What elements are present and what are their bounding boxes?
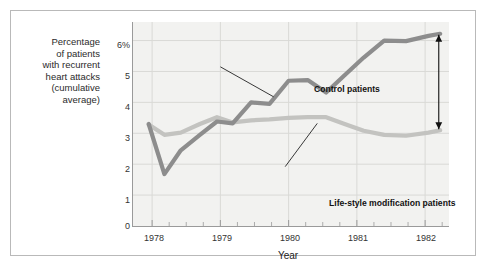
y-tick-label-0: 0 [104, 222, 130, 231]
y-axis-caption-line-4: heart attacks [14, 71, 100, 83]
x-minor-ticks [152, 220, 442, 226]
x-axis-title: Year [248, 250, 328, 261]
x-tick-label-1981: 1981 [338, 234, 378, 243]
y-axis-caption-line-5: (cumulative [14, 82, 100, 94]
gap-double-arrow-icon [435, 35, 442, 129]
y-axis-caption-line-2: of patients [14, 48, 100, 60]
y-axis-caption-line-3: with recurrent [14, 59, 100, 71]
chart-svg [133, 22, 449, 226]
y-axis-caption-line-1: Percentage [14, 36, 100, 48]
y-tick-label-6: 6% [98, 41, 130, 50]
series-label-lifestyle: Life-style modification patients [329, 198, 456, 208]
y-tick-label-5: 5 [104, 72, 130, 81]
y-axis-caption: Percentage of patients with recurrent he… [14, 36, 100, 106]
series-line-control [149, 34, 440, 174]
x-tick-label-1978: 1978 [134, 234, 174, 243]
plot-area: Control patients Life-style modification… [132, 22, 449, 227]
gridlines [133, 22, 449, 226]
y-tick-label-3: 3 [104, 134, 130, 143]
y-tick-label-1: 1 [104, 196, 130, 205]
series-label-control: Control patients [314, 84, 380, 94]
y-axis-caption-line-6: average) [14, 94, 100, 106]
x-tick-label-1980: 1980 [270, 234, 310, 243]
y-tick-label-2: 2 [104, 165, 130, 174]
lifestyle-label-leader-line [285, 123, 317, 166]
x-tick-label-1982: 1982 [406, 234, 446, 243]
x-tick-label-1979: 1979 [202, 234, 242, 243]
y-tick-label-4: 4 [104, 103, 130, 112]
